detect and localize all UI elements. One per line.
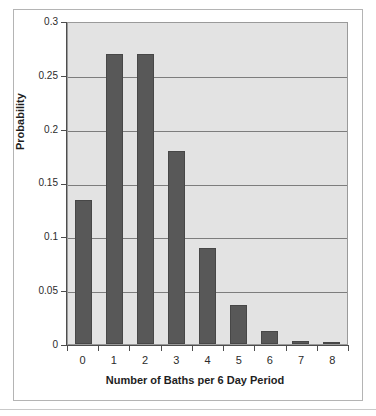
x-tick-mark [129, 346, 130, 351]
x-tick-mark [192, 346, 193, 351]
y-tick-mark [61, 76, 66, 77]
bar-slot [254, 23, 285, 344]
x-tick-label: 6 [254, 353, 285, 369]
bar-slot [223, 23, 254, 344]
y-axis-title: Probability [14, 136, 26, 150]
bar-slot [161, 23, 192, 344]
x-tick-mark [286, 346, 287, 351]
page-rule [0, 409, 376, 410]
bar[interactable] [261, 331, 278, 344]
bar-slot [285, 23, 316, 344]
plot-area [67, 22, 348, 345]
x-tick-label: 1 [98, 353, 129, 369]
y-tick-mark [61, 237, 66, 238]
bar[interactable] [75, 200, 92, 344]
x-tick-label: 0 [67, 353, 98, 369]
x-axis-tick-labels: 0 1 2 3 4 5 6 7 8 [67, 353, 348, 369]
x-tick-label: 7 [286, 353, 317, 369]
x-tick-label: 5 [223, 353, 254, 369]
x-tick-mark [161, 346, 162, 351]
x-tick-mark [348, 346, 349, 351]
bar[interactable] [106, 54, 123, 344]
y-tick-label: 0.25 [6, 71, 58, 81]
y-axis-tick-labels: 0.3 0.25 0.2 0.15 0.1 0.05 0 [6, 0, 58, 416]
x-tick-label: 2 [129, 353, 160, 369]
x-axis-title: Number of Baths per 6 Day Period [40, 374, 350, 386]
x-tick-mark [317, 346, 318, 351]
x-tick-label: 4 [192, 353, 223, 369]
x-tick-mark [98, 346, 99, 351]
x-tick-mark [254, 346, 255, 351]
y-axis-line [66, 22, 67, 346]
y-tick-mark [61, 345, 66, 346]
bar[interactable] [199, 248, 216, 344]
y-tick-label: 0.1 [6, 232, 58, 242]
bar[interactable] [137, 54, 154, 344]
y-tick-mark [61, 22, 66, 23]
bar[interactable] [323, 342, 340, 344]
bar-slot [68, 23, 99, 344]
x-tick-label: 8 [317, 353, 348, 369]
bar[interactable] [168, 151, 185, 344]
bar-series [68, 23, 347, 344]
y-tick-label: 0.3 [6, 17, 58, 27]
x-axis-tick-marks [67, 346, 348, 351]
bar-slot [192, 23, 223, 344]
y-tick-label: 0.05 [6, 286, 58, 296]
bar-slot [316, 23, 347, 344]
y-tick-mark [61, 130, 66, 131]
y-tick-label: 0 [6, 340, 58, 350]
bar[interactable] [292, 341, 309, 344]
x-tick-label: 3 [161, 353, 192, 369]
bar-slot [99, 23, 130, 344]
y-tick-mark [61, 184, 66, 185]
bar[interactable] [230, 305, 247, 344]
y-tick-label: 0.15 [6, 178, 58, 188]
chart-figure: 0.3 0.25 0.2 0.15 0.1 0.05 0 0 1 2 3 4 5… [0, 0, 376, 416]
bar-slot [130, 23, 161, 344]
x-tick-mark [223, 346, 224, 351]
x-tick-mark [67, 346, 68, 351]
y-tick-mark [61, 291, 66, 292]
